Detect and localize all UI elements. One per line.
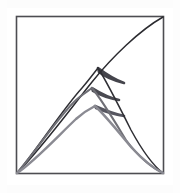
figure-container (0, 0, 180, 193)
figure-canvas (0, 0, 180, 193)
